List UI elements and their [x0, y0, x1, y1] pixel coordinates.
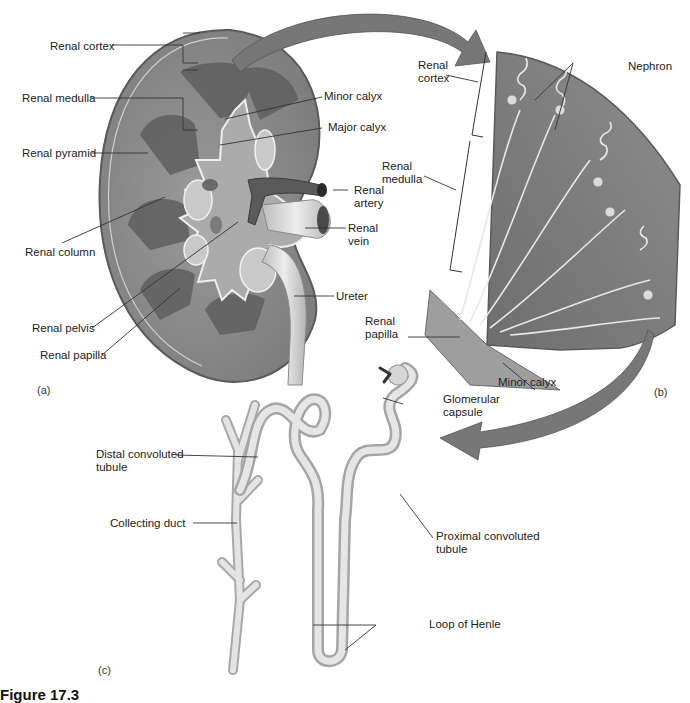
- kidney-cross-section: [100, 30, 331, 385]
- label-renal-papilla-a: Renal papilla: [40, 349, 107, 362]
- label-distal-convoluted-tubule: Distal convoluted tubule: [96, 448, 184, 474]
- label-renal-cortex-a: Renal cortex: [50, 40, 115, 53]
- label-collecting-duct: Collecting duct: [110, 517, 185, 530]
- panel-label-b: (b): [654, 386, 667, 398]
- label-renal-medulla-b: Renal medulla: [382, 160, 422, 186]
- label-renal-vein: Renal vein: [348, 222, 378, 248]
- nephron-diagram: [222, 365, 412, 670]
- panel-label-c: (c): [98, 664, 111, 676]
- label-minor-calyx-a: Minor calyx: [324, 90, 382, 103]
- label-renal-papilla-b: Renal papilla: [365, 315, 398, 341]
- label-minor-calyx-b: Minor calyx: [498, 376, 556, 389]
- panel-label-a: (a): [37, 384, 50, 396]
- label-renal-pelvis: Renal pelvis: [32, 322, 95, 335]
- label-loop-of-henle: Loop of Henle: [429, 618, 501, 631]
- label-renal-cortex-b: Renal cortex: [418, 59, 449, 85]
- label-nephron: Nephron: [628, 60, 672, 73]
- figure-caption: Figure 17.3: [0, 686, 79, 703]
- label-renal-artery: Renal artery: [354, 184, 384, 210]
- label-renal-pyramid: Renal pyramid: [22, 147, 96, 160]
- renal-pyramid-wedge: [425, 52, 680, 390]
- label-renal-column: Renal column: [25, 246, 95, 259]
- label-ureter: Ureter: [336, 290, 368, 303]
- label-glomerular-capsule: Glomerular capsule: [443, 393, 500, 419]
- label-renal-medulla-a: Renal medulla: [22, 92, 96, 105]
- label-major-calyx: Major calyx: [328, 121, 386, 134]
- label-proximal-convoluted-tubule: Proximal convoluted tubule: [436, 530, 540, 556]
